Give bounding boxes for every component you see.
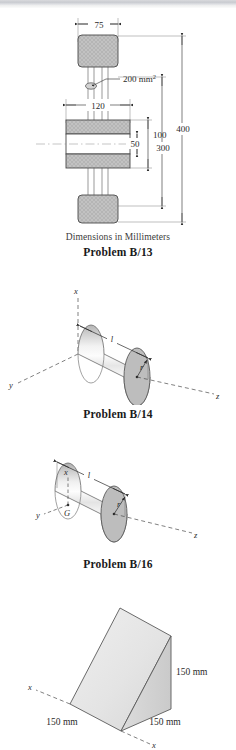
dim-label-100: 100 xyxy=(153,130,167,140)
figure-wedge: x x 150 mm 150 mm 150 mm xyxy=(0,580,236,750)
figure-problem-b-16: x y G z l r xyxy=(0,438,236,558)
annotation-cross-section-area: 200 mm2 xyxy=(86,73,157,90)
axis-x: x xyxy=(73,286,78,354)
dim-label-50: 50 xyxy=(131,139,141,149)
axis-label-x-left: x xyxy=(27,682,32,692)
caption-problem-b-14: Problem B/14 xyxy=(0,408,236,420)
axis-label-x: x xyxy=(63,467,68,477)
label-depth-left-150mm: 150 mm xyxy=(46,717,78,727)
axis-x-front: x xyxy=(121,731,156,750)
figure-problem-b-14: x y z xyxy=(0,280,236,405)
figure-page: 75 200 mm2 xyxy=(0,0,236,750)
caption-problem-b-16: Problem B/16 xyxy=(0,558,236,570)
axis-x-left: x xyxy=(27,682,70,704)
axis-label-x-front: x xyxy=(151,740,156,750)
dim-label-300: 300 xyxy=(156,143,170,153)
top-block xyxy=(78,35,118,67)
bottom-block xyxy=(78,195,118,223)
lower-rods xyxy=(88,168,108,197)
axis-label-z: z xyxy=(193,530,198,540)
axis-label-y: y xyxy=(8,380,13,390)
axis-label-x: x xyxy=(73,286,78,296)
upper-rods xyxy=(88,67,108,122)
centroid-label: G xyxy=(64,508,70,518)
axis-y: y xyxy=(8,354,78,390)
caption-problem-b-13: Problem B/13 xyxy=(0,246,236,258)
dim-label-75: 75 xyxy=(95,20,105,30)
figure-problem-b-13: 75 200 mm2 xyxy=(0,10,236,230)
axis-label-z: z xyxy=(215,391,220,401)
label-height-150mm: 150 mm xyxy=(176,667,208,677)
scan-band-bottom xyxy=(0,5,236,8)
dim-label-area: 200 mm2 xyxy=(123,73,156,85)
label-depth-right-150mm: 150 mm xyxy=(149,717,181,727)
dim-label-120: 120 xyxy=(91,101,105,111)
axis-label-y: y xyxy=(35,510,40,520)
dim-120: 120 xyxy=(66,99,130,123)
caption-dimensions-note: Dimensions in Millimeters xyxy=(0,232,236,242)
dim-label-400: 400 xyxy=(176,124,190,134)
